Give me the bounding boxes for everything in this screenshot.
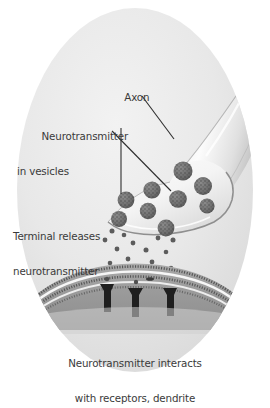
label-vesicles-line2: in vesicles [6,166,128,178]
fusing-vesicle-left [111,211,127,227]
label-axon-text: Axon [124,91,149,103]
label-terminal-release: Terminal releases neurotransmitter [13,208,100,289]
label-axon: Axon [118,80,149,103]
label-terminal-line1: Terminal releases [13,231,100,243]
fusing-vesicle-right [158,220,175,237]
label-dendrite-line1: Neurotransmitter interacts [35,358,235,370]
label-vesicles: Neurotransmitter in vesicles [6,108,128,189]
label-vesicles-line1: Neurotransmitter [6,131,128,143]
label-dendrite-line2: with receptors, dendrite [35,393,235,405]
label-dendrite-receptors: Neurotransmitter interacts with receptor… [35,335,235,408]
label-terminal-line2: neurotransmitter [13,266,100,278]
